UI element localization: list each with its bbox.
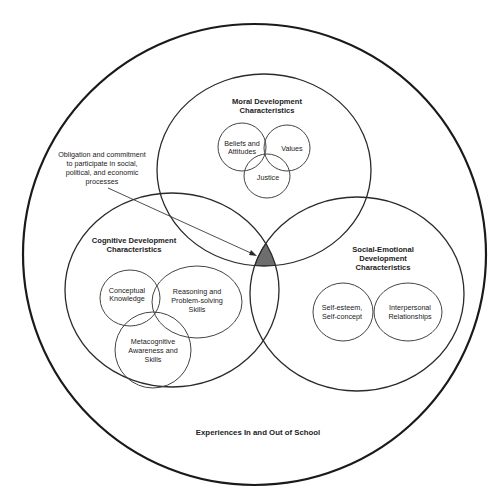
social-emotional-development-circle <box>250 197 464 391</box>
social-emotional-title-line2: Development <box>359 254 407 263</box>
beliefs-label-line2: Attitudes <box>228 147 256 156</box>
metacognitive-label-line3: Skills <box>145 355 162 364</box>
interpersonal-label-line2: Relationships <box>388 312 432 321</box>
metacognitive-label-line2: Awareness and <box>128 346 177 355</box>
interpersonal-label-line1: Interpersonal <box>389 303 431 312</box>
social-emotional-title-line3: Characteristics <box>356 263 411 272</box>
reasoning-label-line2: Problem-solving <box>171 296 223 305</box>
self-esteem-label-line2: Self-concept <box>322 312 362 321</box>
arrowhead-icon <box>249 250 257 256</box>
self-esteem-label-line1: Self-esteem, <box>322 303 362 312</box>
moral-title-line2: Characteristics <box>240 106 295 115</box>
intersection-note-line4: processes <box>86 177 119 186</box>
intersection-note-line1: Obligation and commitment <box>58 150 146 159</box>
moral-title-line1: Moral Development <box>232 97 303 106</box>
cognitive-title-line1: Cognitive Development <box>92 236 177 245</box>
outer-context-label: Experiences In and Out of School <box>196 428 320 437</box>
intersection-note-line2: to participate in social, <box>66 159 137 168</box>
intersection-note-line3: political, and economic <box>66 168 139 177</box>
social-emotional-title-line1: Social-Emotional <box>352 245 414 254</box>
metacognitive-label-line1: Metacognitive <box>131 337 175 346</box>
justice-label: Justice <box>257 173 279 182</box>
triple-intersection-shade <box>250 197 464 391</box>
conceptual-label-line2: Knowledge <box>109 294 145 303</box>
venn-diagram: Moral Development Characteristics Belief… <box>0 0 504 503</box>
reasoning-label-line3: Skills <box>189 305 206 314</box>
reasoning-label-line1: Reasoning and <box>173 287 221 296</box>
values-label: Values <box>281 144 303 153</box>
cognitive-title-line2: Characteristics <box>107 245 162 254</box>
